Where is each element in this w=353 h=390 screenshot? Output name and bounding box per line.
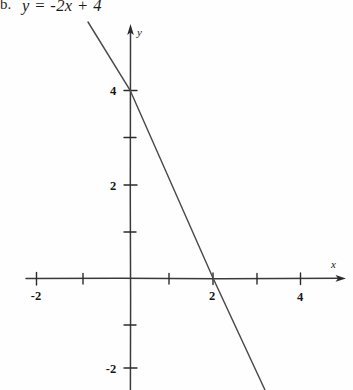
x-tick-label-4: 4 bbox=[297, 290, 304, 304]
x-axis-label: x bbox=[330, 258, 336, 270]
y-tick-label-neg2: -2 bbox=[106, 362, 116, 376]
y-axis bbox=[127, 24, 134, 390]
graph-page: b. y = -2x + 4 bbox=[0, 0, 353, 390]
x-axis bbox=[26, 275, 346, 282]
y-tick-label-4: 4 bbox=[110, 84, 117, 98]
y-axis-label: y bbox=[136, 26, 142, 38]
coordinate-graph: y x 4 2 -2 -2 2 4 bbox=[0, 0, 353, 390]
x-tick-label-2: 2 bbox=[209, 289, 215, 303]
y-tick-label-2: 2 bbox=[110, 179, 116, 193]
plotted-line bbox=[88, 22, 265, 390]
x-tick-label-neg2: -2 bbox=[31, 289, 41, 303]
